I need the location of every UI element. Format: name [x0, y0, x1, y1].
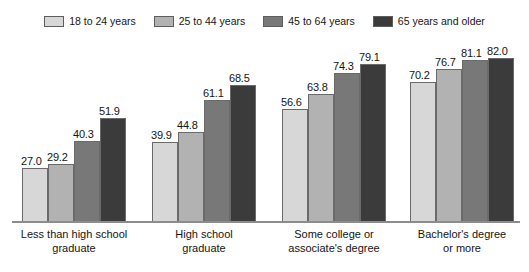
category-label-line: graduate	[4, 241, 144, 255]
legend-swatch-icon	[154, 16, 174, 27]
bar-value-label: 74.3	[333, 60, 354, 72]
bar-group: 70.276.781.182.0	[410, 38, 514, 222]
category-label: Some college orassociate's degree	[264, 227, 404, 255]
legend-item: 65 years and older	[373, 16, 485, 27]
category-label: Less than high schoolgraduate	[4, 227, 144, 255]
legend-item-label: 25 to 44 years	[179, 16, 246, 27]
legend-item: 18 to 24 years	[44, 16, 136, 27]
bar-value-label: 27.0	[21, 155, 42, 167]
bar	[360, 64, 386, 222]
category-label: High schoolgraduate	[134, 227, 274, 255]
bar-group: 27.029.240.351.9	[22, 38, 126, 222]
bar	[230, 85, 256, 222]
category-label-line: High school	[134, 227, 274, 241]
x-axis-category-labels: Less than high schoolgraduateHigh school…	[0, 227, 529, 272]
legend-swatch-icon	[263, 16, 283, 27]
bar	[204, 100, 230, 222]
bar	[282, 109, 308, 222]
bar	[308, 94, 334, 222]
legend-item-label: 18 to 24 years	[69, 16, 136, 27]
legend-item: 45 to 64 years	[263, 16, 355, 27]
chart-legend: 18 to 24 years25 to 44 years45 to 64 yea…	[0, 13, 529, 29]
bar	[334, 73, 360, 222]
category-label: Bachelor's degreeor more	[392, 227, 529, 255]
category-label-line: associate's degree	[264, 241, 404, 255]
legend-swatch-icon	[373, 16, 393, 27]
bar	[488, 58, 514, 222]
bar-value-label: 61.1	[203, 87, 224, 99]
category-label-line: Some college or	[264, 227, 404, 241]
category-label-line: or more	[392, 241, 529, 255]
x-axis-baseline	[12, 221, 520, 223]
category-label-line: Less than high school	[4, 227, 144, 241]
bar	[462, 60, 488, 222]
bar-value-label: 39.9	[151, 129, 172, 141]
bar-value-label: 44.8	[177, 119, 198, 131]
legend-swatch-icon	[44, 16, 64, 27]
bar-value-label: 40.3	[73, 128, 94, 140]
bar-value-label: 68.5	[229, 72, 250, 84]
bar-value-label: 29.2	[47, 151, 68, 163]
chart-plot-area: 27.029.240.351.939.944.861.168.556.663.8…	[0, 38, 529, 222]
bar-value-label: 79.1	[359, 51, 380, 63]
category-label-line: Bachelor's degree	[392, 227, 529, 241]
bar	[178, 132, 204, 222]
bar	[100, 118, 126, 222]
bar-value-label: 56.6	[281, 96, 302, 108]
bar-value-label: 63.8	[307, 81, 328, 93]
bar-group: 39.944.861.168.5	[152, 38, 256, 222]
bar-value-label: 76.7	[435, 56, 456, 68]
bar-value-label: 70.2	[409, 69, 430, 81]
category-label-line: graduate	[134, 241, 274, 255]
bar	[152, 142, 178, 222]
bar	[436, 69, 462, 222]
bar-value-label: 51.9	[99, 105, 120, 117]
bar-value-label: 82.0	[487, 45, 508, 57]
bar-value-label: 81.1	[461, 47, 482, 59]
bar	[48, 164, 74, 222]
legend-item: 25 to 44 years	[154, 16, 246, 27]
bar	[74, 141, 100, 222]
bar	[410, 82, 436, 222]
legend-item-label: 45 to 64 years	[288, 16, 355, 27]
bar-group: 56.663.874.379.1	[282, 38, 386, 222]
bar	[22, 168, 48, 222]
legend-item-label: 65 years and older	[398, 16, 485, 27]
